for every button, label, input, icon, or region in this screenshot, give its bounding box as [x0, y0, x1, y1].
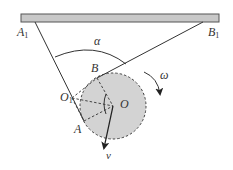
label-b1: B1 [208, 25, 219, 40]
label-v: v [106, 149, 111, 161]
omega-arrow-icon [144, 72, 160, 94]
label-a: A [73, 122, 82, 136]
pendulum-disk-diagram: A1 B1 α B ω O1 O A v [0, 0, 233, 170]
label-o1: O1 [60, 90, 73, 105]
string-b1-b [97, 22, 203, 78]
label-o: O [120, 97, 129, 111]
label-omega: ω [160, 68, 168, 82]
ceiling-bar [21, 14, 219, 22]
label-a1: A1 [16, 25, 28, 40]
label-alpha: α [94, 34, 101, 48]
label-b: B [91, 61, 99, 75]
